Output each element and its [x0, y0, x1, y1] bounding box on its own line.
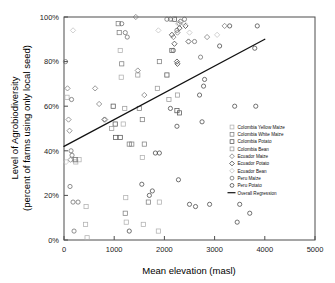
legend-item-1[interactable]: Colombia White Maize [230, 132, 284, 137]
x-axis-title: Mean elevation (masl) [142, 265, 235, 276]
legend-label: Ecuador Potato [238, 161, 270, 166]
legend-label: Overall Regression [238, 191, 278, 196]
y-tick-label: 80% [44, 57, 59, 66]
y-tick-label: 60% [44, 102, 59, 111]
legend-label: Colombia Bean [238, 147, 270, 152]
x-tick-label: 4000 [256, 245, 273, 254]
y-axis-title-line1: Level of Agrobiodiversity [9, 76, 20, 179]
x-tick-label: 5000 [307, 245, 324, 254]
legend-label: Colombia White Maize [238, 132, 284, 137]
y-axis-title-line2: (percent of farms using only local seed) [21, 45, 32, 211]
legend-label: Peru Maize [238, 176, 262, 181]
legend-item-0[interactable]: Colombia Yellow Maize [230, 125, 285, 130]
y-tick-label: 40% [44, 147, 59, 156]
legend-label: Ecuador Maize [238, 154, 269, 159]
y-tick-label: 100% [40, 13, 60, 22]
y-tick-label: 0% [48, 236, 59, 245]
legend-label: Colombia Yellow Maize [238, 125, 286, 130]
x-tick-label: 1000 [106, 245, 123, 254]
legend-label: Peru Potato [238, 183, 263, 188]
chart-legend: Colombia Yellow MaizeColombia White Maiz… [226, 120, 314, 196]
legend-label: Colombia Potato [238, 139, 272, 144]
legend-label: Ecuador Bean [238, 169, 268, 174]
x-tick-label: 3000 [206, 245, 223, 254]
x-tick-label: 0 [62, 245, 66, 254]
y-tick-label: 20% [44, 191, 59, 200]
scatter-plot: 010002000300040005000 0%20%40%60%80%100%… [0, 0, 335, 283]
x-tick-label: 2000 [156, 245, 173, 254]
chart-root: 010002000300040005000 0%20%40%60%80%100%… [0, 0, 335, 283]
